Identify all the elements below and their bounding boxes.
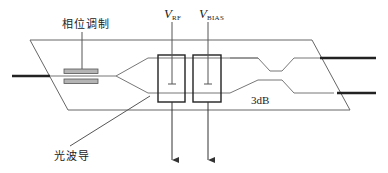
modulator-diagram: 相位调制 VRF VBIAS 3dB 光波导: [0, 0, 388, 173]
phase-modulation-label: 相位调制: [62, 19, 110, 30]
coupler-lower-path: [230, 80, 334, 93]
v-bias-label: VBIAS: [199, 7, 224, 22]
diagram-graphics: [0, 0, 388, 173]
v-rf-subscript: RF: [172, 14, 181, 22]
chip-substrate: [30, 40, 350, 110]
waveguide-leader: [70, 96, 150, 146]
coupler-3db-label: 3dB: [251, 95, 269, 106]
v-rf-label: VRF: [164, 7, 181, 22]
y-splitter-lower-arm: [116, 76, 160, 93]
optical-waveguide-label: 光波导: [54, 151, 90, 162]
v-bias-symbol: V: [199, 6, 207, 21]
y-splitter-upper-arm: [116, 58, 258, 76]
v-rf-symbol: V: [164, 6, 172, 21]
v-bias-subscript: BIAS: [207, 14, 224, 22]
phase-modulator-electrode-bottom: [64, 79, 98, 84]
bias-electrode-box: [193, 55, 221, 102]
phase-modulator-electrode-top: [64, 69, 98, 74]
coupler-upper-path: [230, 58, 320, 71]
